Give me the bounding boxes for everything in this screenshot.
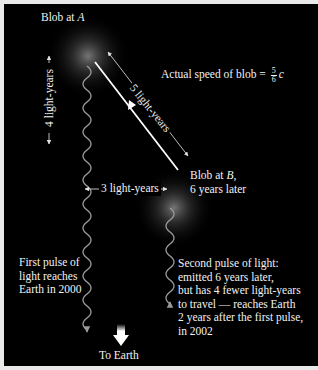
blob-b-label: Blob at B, 6 years later	[190, 169, 246, 196]
first-pulse-label: First pulse of light reaches Earth in 20…	[19, 256, 82, 297]
blob-a-glow	[46, 14, 130, 98]
horizontal-distance-label: 3 light-years	[99, 182, 161, 196]
second-pulse-label: Second pulse of light: emitted 6 years l…	[178, 257, 303, 338]
motion-arrowhead-icon	[128, 100, 136, 110]
diagram-panel: Blob at A Actual speed of blob = 56c 4 l…	[4, 4, 318, 366]
down-arrow-icon	[113, 324, 129, 346]
first-pulse-wave	[83, 66, 91, 332]
vertical-distance-label: 4 light-years	[43, 63, 55, 133]
blob-a-label: Blob at A	[41, 11, 84, 25]
actual-speed-label: Actual speed of blob = 56c	[161, 67, 284, 84]
speed-fraction: 56	[271, 67, 277, 84]
to-earth-label: To Earth	[99, 349, 139, 363]
